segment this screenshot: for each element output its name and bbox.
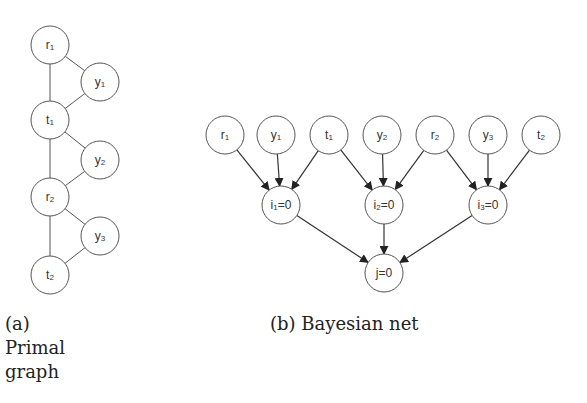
bayesian-net-nodes: r1y1t1y2r2y3t2i1=0i2=0i3=0j=0 <box>206 116 560 292</box>
bayes-node-i1: i1=0 <box>262 186 300 224</box>
bayes-node-r1: r1 <box>206 116 244 154</box>
edge-t2-y3 <box>65 248 85 264</box>
bayes-node-y2: y2 <box>363 116 401 154</box>
bayes-node-t2: t2 <box>522 116 560 154</box>
primal-node-t2: t2 <box>31 256 69 294</box>
bayes-node-i2: i2=0 <box>365 186 403 224</box>
primal-node-r1: r1 <box>31 26 69 64</box>
arrow-i3-j <box>400 215 472 262</box>
bayes-node-r2: r2 <box>416 116 454 154</box>
caption-label-a: (a) <box>5 312 95 336</box>
edge-r2-y2 <box>65 171 84 185</box>
edge-r2-y3 <box>65 209 85 225</box>
primal-graph-edges <box>50 56 85 263</box>
primal-node-y2: y2 <box>81 141 119 179</box>
arrow-r2-i2 <box>395 150 424 189</box>
primal-node-y1: y1 <box>81 63 119 101</box>
arrow-t1-i2 <box>341 150 373 190</box>
arrow-y2-i2 <box>383 154 384 186</box>
bayes-node-y1: y1 <box>257 116 295 154</box>
bayes-node-t1: t1 <box>310 116 348 154</box>
caption-text-line2: graph <box>5 360 95 384</box>
arrow-y1-i1 <box>277 154 279 186</box>
primal-node-y3: y3 <box>81 217 119 255</box>
primal-graph-nodes: r1y1t1y2r2y3t2 <box>31 26 119 294</box>
arrow-t1-i1 <box>292 151 319 190</box>
edge-t1-y2 <box>65 132 85 148</box>
bayes-node-i3: i3=0 <box>469 186 507 224</box>
edge-t1-y1 <box>65 93 85 108</box>
caption-text-line1: Primal <box>5 336 95 360</box>
bayes-node-y3: y3 <box>469 116 507 154</box>
edge-r1-y1 <box>65 56 84 70</box>
node-label: j=0 <box>375 266 393 280</box>
arrow-r1-i1 <box>237 150 269 190</box>
bayesian-net-caption: (b) Bayesian net <box>270 312 419 336</box>
arrow-t2-i3 <box>499 150 529 190</box>
primal-graph-caption: (a) Primal graph <box>5 312 95 384</box>
arrow-r2-i3 <box>446 150 476 190</box>
arrow-i1-j <box>297 215 368 262</box>
primal-node-r2: r2 <box>31 178 69 216</box>
bayes-node-j: j=0 <box>365 254 403 292</box>
primal-node-t1: t1 <box>31 101 69 139</box>
